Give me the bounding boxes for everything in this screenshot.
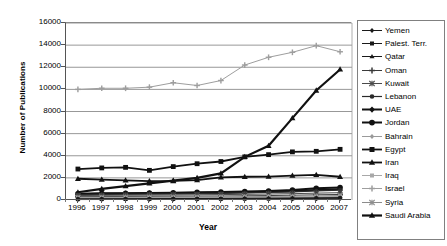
x-minor-tick-mark xyxy=(65,199,66,202)
series-marker xyxy=(218,78,224,84)
x-tick-mark xyxy=(268,199,269,203)
legend-item-kuwait[interactable]: Kuwait xyxy=(360,77,442,90)
series-marker xyxy=(75,87,81,93)
series-marker xyxy=(123,165,128,170)
x-tick-mark xyxy=(196,199,197,203)
series-marker xyxy=(147,168,152,173)
legend-item-yemen[interactable]: Yemen xyxy=(360,24,442,37)
triangle-marker-icon xyxy=(361,51,383,62)
legend-item-israel[interactable]: Israel xyxy=(360,182,442,195)
legend-key-marker xyxy=(370,174,374,178)
y-tick-mark xyxy=(61,133,65,134)
y-tick-mark xyxy=(61,88,65,89)
diamond-marker-icon xyxy=(361,104,383,115)
y-axis-tick-labels: 1600014000120001000080006000400020000 xyxy=(15,0,61,199)
legend-key-marker xyxy=(369,81,374,86)
y-tick-label: 0 xyxy=(19,195,61,203)
legend-item-palest-terr[interactable]: Palest. Terr. xyxy=(360,37,442,50)
publications-line-chart: Number of Publications 16000140001200010… xyxy=(0,0,447,246)
legend-item-qatar[interactable]: Qatar xyxy=(360,50,442,63)
x-tick-mark xyxy=(244,199,245,203)
x-minor-tick-mark xyxy=(256,199,257,202)
series-marker xyxy=(76,167,81,172)
x-tick-label: 2007 xyxy=(324,203,354,212)
legend-key-marker xyxy=(370,134,375,139)
x-minor-tick-mark xyxy=(184,199,185,202)
legend-item-label: Oman xyxy=(383,66,407,75)
y-tick-label: 10000 xyxy=(19,84,61,92)
x-tick-mark xyxy=(315,199,316,203)
legend-key-marker xyxy=(370,147,375,152)
series-marker xyxy=(290,149,295,154)
legend-item-iran[interactable]: Iran xyxy=(360,156,442,169)
triangle-marker-icon xyxy=(361,210,383,221)
legend-item-saudi-arabia[interactable]: Saudi Arabia xyxy=(360,209,442,222)
square-marker-icon xyxy=(361,170,383,181)
series-marker xyxy=(266,152,271,157)
legend-item-label: Saudi Arabia xyxy=(383,211,430,220)
y-tick-label: 6000 xyxy=(19,129,61,137)
legend-item-syria[interactable]: Syria xyxy=(360,195,442,208)
series-marker xyxy=(266,54,272,60)
legend-key-marker xyxy=(369,67,375,73)
x-tick-mark xyxy=(339,199,340,203)
square-marker-icon xyxy=(361,144,383,155)
series-marker xyxy=(99,166,104,171)
star-marker-icon xyxy=(361,78,383,89)
cross-marker-icon xyxy=(361,65,383,76)
series-marker xyxy=(338,147,343,152)
y-tick-mark xyxy=(61,44,65,45)
x-minor-tick-mark xyxy=(327,199,328,202)
legend-item-label: Iraq xyxy=(383,171,399,180)
series-marker xyxy=(313,43,319,49)
legend-item-egypt[interactable]: Egypt xyxy=(360,143,442,156)
series-egypt xyxy=(76,147,343,173)
diamond-marker-icon xyxy=(361,131,383,142)
star-marker-icon xyxy=(361,197,383,208)
legend-item-lebanon[interactable]: Lebanon xyxy=(360,90,442,103)
legend-item-label: Palest. Terr. xyxy=(383,39,427,48)
legend-item-label: Yemen xyxy=(383,26,410,35)
x-minor-tick-mark xyxy=(280,199,281,202)
y-tick-mark xyxy=(61,177,65,178)
legend-item-label: Syria xyxy=(383,198,403,207)
triangle-marker-icon xyxy=(361,157,383,168)
cross-marker-icon xyxy=(361,183,383,194)
x-minor-tick-mark xyxy=(113,199,114,202)
y-tick-mark xyxy=(61,66,65,67)
series-marker xyxy=(242,154,247,159)
legend-item-iraq[interactable]: Iraq xyxy=(360,169,442,182)
legend-key-marker xyxy=(369,107,375,113)
x-tick-mark xyxy=(125,199,126,203)
series-marker xyxy=(171,164,176,169)
legend-item-jordan[interactable]: Jordan xyxy=(360,116,442,129)
diamond-marker-icon xyxy=(361,25,383,36)
series-marker xyxy=(99,85,105,91)
legend-item-uae[interactable]: UAE xyxy=(360,103,442,116)
series-marker xyxy=(170,80,176,86)
y-tick-label: 16000 xyxy=(19,18,61,26)
legend-item-bahrain[interactable]: Bahrain xyxy=(360,130,442,143)
legend-item-label: Israel xyxy=(383,184,405,193)
legend-item-label: Jordan xyxy=(383,118,409,127)
legend-item-label: UAE xyxy=(383,105,401,114)
series-marker xyxy=(337,49,343,55)
legend-item-label: Bahrain xyxy=(383,132,413,141)
legend-item-label: Kuwait xyxy=(383,79,409,88)
x-minor-tick-mark xyxy=(303,199,304,202)
y-tick-label: 4000 xyxy=(19,151,61,159)
series-marker xyxy=(314,149,319,154)
x-minor-tick-mark xyxy=(232,199,233,202)
series-marker xyxy=(195,161,200,166)
y-tick-label: 12000 xyxy=(19,62,61,70)
legend-item-oman[interactable]: Oman xyxy=(360,64,442,77)
x-minor-tick-mark xyxy=(137,199,138,202)
legend-key-marker xyxy=(369,199,374,204)
x-minor-tick-mark xyxy=(89,199,90,202)
y-tick-mark xyxy=(61,22,65,23)
x-tick-mark xyxy=(77,199,78,203)
x-tick-mark xyxy=(220,199,221,203)
x-tick-mark xyxy=(172,199,173,203)
x-tick-mark xyxy=(291,199,292,203)
series-marker xyxy=(123,85,129,91)
